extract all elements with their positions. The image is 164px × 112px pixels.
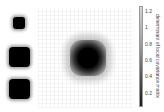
colorbar-tick: 0.8 — [145, 42, 152, 47]
colorbar-tick: 1 — [145, 25, 148, 30]
colorbar-tick: 0.6 — [145, 58, 152, 63]
colorbar-label: determinant of local covariance matrix — [155, 14, 161, 98]
colorbar — [139, 6, 143, 107]
heatmap-central-blob — [70, 40, 106, 76]
middle-square-panel — [9, 47, 30, 67]
colorbar-tick: 0.2 — [145, 91, 152, 96]
colorbar-tick: 0.4 — [145, 74, 152, 79]
bottom-square-panel — [9, 79, 30, 99]
colorbar-tick: 1.2 — [145, 9, 152, 14]
small-square-panel — [13, 17, 25, 29]
